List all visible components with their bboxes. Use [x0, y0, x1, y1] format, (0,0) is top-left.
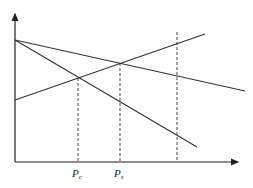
steep-downward-line [15, 40, 197, 147]
pc-label: Pc [71, 167, 83, 181]
upward-line [15, 34, 205, 100]
ps-label: Ps [113, 167, 124, 181]
shallow-downward-line [15, 40, 245, 91]
diagram-canvas: Pc Ps [0, 0, 253, 188]
